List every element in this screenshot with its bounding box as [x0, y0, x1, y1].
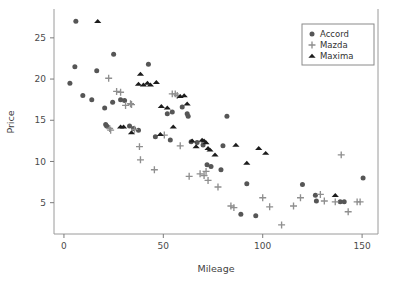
legend-label-accord: Accord — [320, 29, 349, 39]
circle-marker — [170, 110, 175, 115]
legend-label-mazda: Mazda — [320, 40, 348, 50]
y-axis-label: Price — [5, 110, 16, 133]
circle-marker — [102, 105, 107, 110]
circle-marker — [122, 98, 127, 103]
y-tick-label: 5 — [40, 198, 46, 208]
chart-canvas: 050100150 510152025 Mileage Price Accord… — [0, 0, 416, 281]
circle-marker — [361, 175, 366, 180]
circle-marker — [146, 62, 151, 67]
y-tick-label: 10 — [35, 157, 47, 167]
circle-marker — [80, 93, 85, 98]
circle-marker — [136, 128, 141, 133]
circle-marker — [218, 167, 223, 172]
circle-marker — [244, 181, 249, 186]
circle-marker — [253, 213, 258, 218]
circle-marker — [111, 52, 116, 57]
circle-marker — [342, 199, 347, 204]
circle-marker — [310, 32, 315, 37]
x-axis-label: Mileage — [197, 263, 234, 274]
circle-marker — [89, 97, 94, 102]
x-tick-label: 0 — [61, 241, 67, 251]
circle-marker — [300, 182, 305, 187]
y-tick-label: 15 — [35, 115, 46, 125]
circle-marker — [67, 81, 72, 86]
circle-marker — [238, 212, 243, 217]
circle-marker — [224, 114, 229, 119]
circle-marker — [73, 19, 78, 24]
legend-label-maxima: Maxima — [320, 51, 353, 61]
circle-marker — [104, 124, 109, 129]
circle-marker — [313, 193, 318, 198]
circle-marker — [186, 114, 191, 119]
chart-legend[interactable]: AccordMazdaMaxima — [302, 24, 374, 65]
circle-marker — [314, 199, 319, 204]
x-tick-label: 150 — [354, 241, 371, 251]
circle-marker — [153, 134, 158, 139]
circle-marker — [94, 68, 99, 73]
circle-marker — [220, 143, 225, 148]
y-tick-label: 20 — [35, 74, 47, 84]
circle-marker — [110, 100, 115, 105]
x-tick-label: 100 — [254, 241, 271, 251]
circle-marker — [131, 126, 136, 131]
circle-marker — [209, 164, 214, 169]
circle-marker — [72, 64, 77, 69]
scatter-chart-figure: 050100150 510152025 Mileage Price Accord… — [0, 0, 416, 281]
circle-marker — [168, 138, 173, 143]
circle-marker — [165, 111, 170, 116]
y-tick-label: 25 — [35, 33, 46, 43]
x-tick-label: 50 — [158, 241, 170, 251]
circle-marker — [195, 140, 200, 145]
